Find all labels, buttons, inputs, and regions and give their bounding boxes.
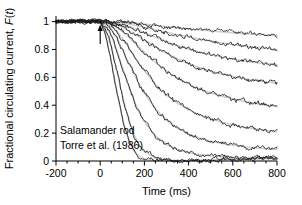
data-trace — [56, 19, 277, 133]
x-tick-label: 600 — [224, 167, 242, 179]
y-tick-label: 0.4 — [34, 99, 49, 111]
theory-curve — [56, 22, 277, 50]
line-chart-canvas: -2000200400600800 00.20.40.60.81 Time (m… — [0, 0, 302, 205]
x-tick-label: 200 — [136, 167, 154, 179]
x-tick-label: 400 — [180, 167, 198, 179]
annotation-citation: Torre et al. (1986) — [60, 139, 143, 151]
y-tick-label: 0.8 — [34, 43, 49, 55]
x-tick-label: 0 — [97, 167, 103, 179]
y-tick-label: 0.6 — [34, 71, 49, 83]
theory-curve — [56, 22, 277, 65]
x-tick-label: 800 — [268, 167, 286, 179]
data-trace — [56, 19, 277, 84]
x-tick-label: -200 — [45, 167, 66, 179]
data-trace — [56, 20, 277, 51]
y-tick-label: 0.2 — [34, 127, 49, 139]
theory-curve — [56, 22, 277, 132]
x-tick-labels-group: -2000200400600800 — [45, 167, 285, 179]
y-tick-labels-group: 00.20.40.60.81 — [34, 15, 49, 166]
annotation-species: Salamander rod — [60, 124, 135, 136]
x-axis-label: Time (ms) — [142, 185, 191, 197]
y-tick-label: 0 — [43, 155, 49, 167]
y-axis-label: Fractional circulating current, F(t) — [3, 8, 15, 169]
chart-figure: -2000200400600800 00.20.40.60.81 Time (m… — [0, 0, 302, 205]
y-tick-label: 1 — [43, 15, 49, 27]
